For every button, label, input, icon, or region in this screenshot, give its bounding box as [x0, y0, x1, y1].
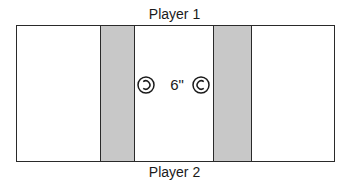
right-shaded-zone: [213, 26, 252, 161]
distance-label: 6": [162, 77, 192, 93]
play-field: 6": [16, 25, 335, 162]
c-circle-icon: [192, 76, 210, 94]
player-1-label: Player 1: [0, 6, 349, 22]
player-2-label: Player 2: [0, 164, 349, 180]
reversed-c-circle-icon: [137, 76, 155, 94]
left-shaded-zone: [100, 26, 135, 161]
